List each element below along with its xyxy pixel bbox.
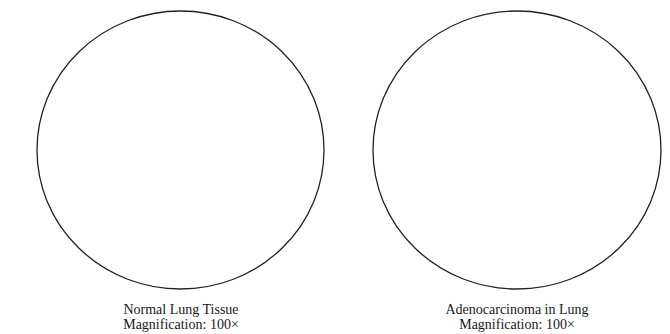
microscope-field-diagrams <box>0 0 670 334</box>
left-caption-magnification: Magnification: 100× <box>51 317 311 332</box>
right-caption: Adenocarcinoma in Lung Magnification: 10… <box>387 302 647 332</box>
left-caption: Normal Lung Tissue Magnification: 100× <box>51 302 311 332</box>
right-caption-magnification: Magnification: 100× <box>387 317 647 332</box>
right-microscope-field <box>373 11 661 289</box>
right-caption-title: Adenocarcinoma in Lung <box>387 302 647 317</box>
left-caption-title: Normal Lung Tissue <box>51 302 311 317</box>
left-microscope-field <box>37 11 324 289</box>
